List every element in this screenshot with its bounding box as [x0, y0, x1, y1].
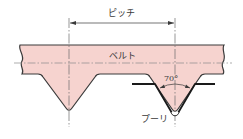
belt-pulley-diagram: ピッチ ベルト 70° プーリ: [0, 0, 243, 139]
diagram-drawing: [0, 0, 243, 139]
pitch-arrow-right-icon: [168, 21, 174, 25]
pulley-label: プーリ: [141, 115, 168, 124]
groove-clearance: [171, 112, 179, 116]
pitch-arrow-left-icon: [70, 21, 76, 25]
belt-label: ベルト: [109, 52, 136, 61]
angle-label: 70°: [164, 75, 178, 83]
pitch-label: ピッチ: [108, 9, 135, 18]
